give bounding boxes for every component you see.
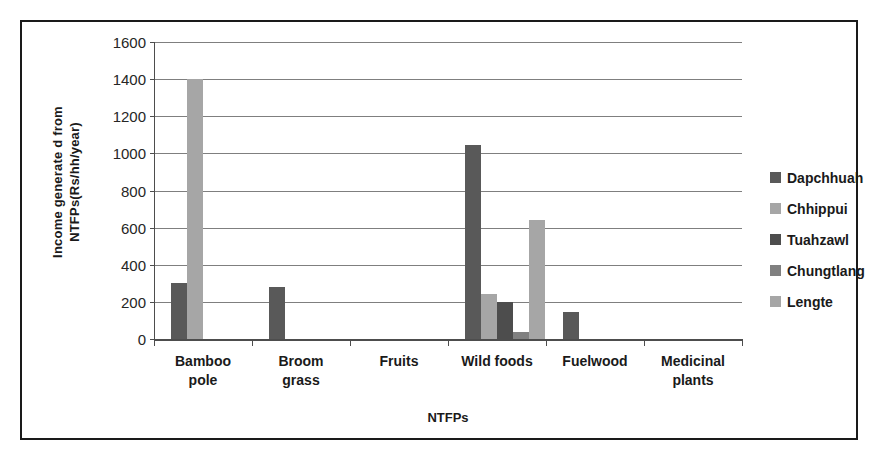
y-axis-title: Income generate d from NTFPs(Rs/hh/year) xyxy=(44,32,88,332)
y-tick-label: 0 xyxy=(138,331,146,348)
x-category-label: Fuelwood xyxy=(546,352,644,371)
x-tick-mark xyxy=(742,339,743,346)
y-tick-label: 1200 xyxy=(113,108,146,125)
bar[interactable] xyxy=(481,294,497,339)
chart-legend: DapchhuahChhippuiTuahzawlChungtlangLengt… xyxy=(770,162,879,317)
legend-label: Lengte xyxy=(787,294,833,310)
y-tick-label: 400 xyxy=(121,256,146,273)
bar[interactable] xyxy=(171,283,187,339)
bar-group xyxy=(351,42,449,339)
x-tick-mark xyxy=(154,339,155,346)
bar-group xyxy=(253,42,351,339)
legend-swatch-icon xyxy=(770,172,781,183)
y-tick-label: 1600 xyxy=(113,34,146,51)
x-category-label: Medicinalplants xyxy=(644,352,742,390)
y-tick-label: 600 xyxy=(121,219,146,236)
bar[interactable] xyxy=(563,312,579,339)
legend-label: Tuahzawl xyxy=(787,232,849,248)
legend-item[interactable]: Chhippui xyxy=(770,193,879,224)
bar-group xyxy=(449,42,547,339)
bar-group xyxy=(645,42,743,339)
chart-figure: Income generate d from NTFPs(Rs/hh/year)… xyxy=(20,20,858,440)
legend-swatch-icon xyxy=(770,234,781,245)
y-axis-title-line2: NTFPs(Rs/hh/year) xyxy=(66,106,83,258)
y-axis-title-line1: Income generate d from xyxy=(49,106,66,258)
x-tick-mark xyxy=(448,339,449,346)
bar[interactable] xyxy=(187,79,203,339)
bar[interactable] xyxy=(465,145,481,339)
x-tick-mark xyxy=(644,339,645,346)
legend-label: Chungtlang xyxy=(787,263,865,279)
x-category-label: Wild foods xyxy=(448,352,546,371)
bar[interactable] xyxy=(269,287,285,339)
plot-area xyxy=(154,42,742,339)
y-axis-tick-labels: 02004006008001000120014001600 xyxy=(92,34,146,334)
x-axis-title: NTFPs xyxy=(154,410,742,425)
bar-group xyxy=(547,42,645,339)
y-tick-label: 800 xyxy=(121,182,146,199)
bar[interactable] xyxy=(529,220,545,339)
bar[interactable] xyxy=(513,332,529,339)
bar[interactable] xyxy=(497,302,513,339)
x-tick-mark xyxy=(350,339,351,346)
x-category-label: Broomgrass xyxy=(252,352,350,390)
bar-group xyxy=(155,42,253,339)
x-axis-category-labels: BamboopoleBroomgrassFruitsWild foodsFuel… xyxy=(154,352,742,412)
legend-label: Chhippui xyxy=(787,201,848,217)
legend-swatch-icon xyxy=(770,296,781,307)
x-tick-mark xyxy=(252,339,253,346)
legend-item[interactable]: Chungtlang xyxy=(770,255,879,286)
legend-item[interactable]: Dapchhuah xyxy=(770,162,879,193)
x-category-label: Bamboopole xyxy=(154,352,252,390)
x-category-label: Fruits xyxy=(350,352,448,371)
y-tick-label: 200 xyxy=(121,293,146,310)
y-tick-label: 1000 xyxy=(113,145,146,162)
x-tick-mark xyxy=(546,339,547,346)
y-tick-label: 1400 xyxy=(113,71,146,88)
legend-item[interactable]: Lengte xyxy=(770,286,879,317)
legend-swatch-icon xyxy=(770,265,781,276)
legend-swatch-icon xyxy=(770,203,781,214)
legend-item[interactable]: Tuahzawl xyxy=(770,224,879,255)
legend-label: Dapchhuah xyxy=(787,170,863,186)
